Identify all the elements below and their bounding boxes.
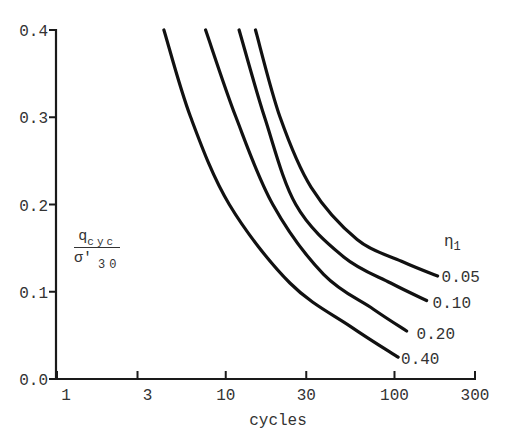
- x-tick-label: 3: [143, 387, 153, 405]
- chart: 0.00.10.20.30.4 131030100300 0.050.100.2…: [0, 0, 512, 445]
- x-ticks: 131030100300: [57, 371, 489, 405]
- x-tick-label: 300: [461, 387, 490, 405]
- curve-eta-0.05: [256, 30, 438, 276]
- legend-title: η1: [444, 233, 461, 254]
- curve-label-0.20: 0.20: [417, 326, 455, 344]
- curve-label-0.40: 0.40: [401, 351, 439, 369]
- x-axis-title: cycles: [249, 412, 307, 430]
- curves: [164, 30, 438, 357]
- y-tick-label: 0.2: [19, 198, 48, 216]
- y-tick-label: 0.0: [19, 372, 48, 390]
- y-axis-title-numerator: qcyc: [74, 228, 120, 248]
- curve-label-0.05: 0.05: [442, 269, 480, 287]
- y-tick-label: 0.4: [19, 23, 48, 41]
- axes: [50, 29, 476, 380]
- curve-label-0.10: 0.10: [433, 295, 471, 313]
- y-ticks: 0.00.10.20.30.4: [19, 23, 56, 390]
- curve-labels: 0.050.100.200.40: [401, 269, 480, 369]
- curve-eta-0.40: [164, 30, 398, 357]
- x-tick-label: 1: [61, 387, 71, 405]
- y-axis-title: qcyc σ'30: [74, 228, 120, 267]
- y-tick-label: 0.3: [19, 110, 48, 128]
- y-axis-title-denominator: σ'30: [74, 248, 120, 267]
- x-tick-label: 10: [216, 387, 235, 405]
- y-tick-label: 0.1: [19, 285, 48, 303]
- x-tick-label: 100: [380, 387, 409, 405]
- x-tick-label: 30: [297, 387, 316, 405]
